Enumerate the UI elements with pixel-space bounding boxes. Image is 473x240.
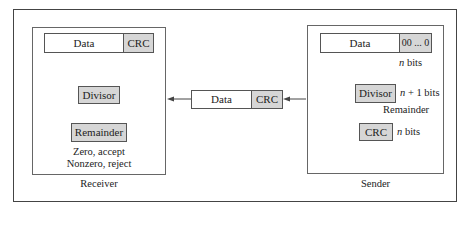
channel-arrowhead-right	[283, 97, 290, 102]
receiver-remainder-box: Remainder	[71, 123, 127, 142]
channel-data-cell: Data	[191, 90, 252, 109]
channel-crc-cell: CRC	[251, 90, 283, 109]
receiver-divisor-box: Divisor	[78, 86, 120, 104]
sender-data-cell: Data	[320, 33, 400, 53]
receiver-result-reject: Nonzero, reject	[32, 158, 166, 171]
sender-padding-cell: 00 ... 0	[399, 33, 432, 53]
sender-remainder-label: Remainder	[383, 104, 429, 117]
sender-divisor-note: n + 1 bits	[400, 87, 439, 100]
sender-divisor-box: Divisor	[355, 84, 396, 103]
sender-label: Sender	[307, 178, 444, 191]
receiver-crc-cell: CRC	[123, 33, 154, 53]
sender-crc-note: n bits	[397, 126, 420, 139]
sender-crc-box: CRC	[359, 123, 393, 141]
receiver-data-cell: Data	[44, 33, 124, 53]
receiver-label: Receiver	[32, 178, 166, 191]
channel-arrowhead-left	[167, 97, 174, 102]
receiver-result-accept: Zero, accept	[32, 146, 166, 159]
sender-padding-note: n bits	[399, 57, 422, 70]
